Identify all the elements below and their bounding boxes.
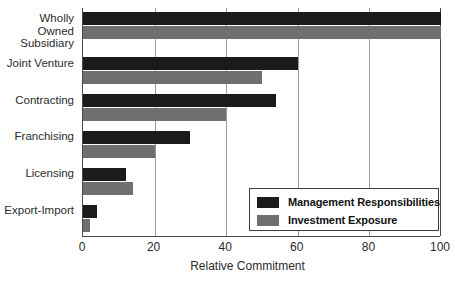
bar-investment-exposure-export-import	[83, 219, 90, 232]
legend-item-management-responsibilities: Management Responsibilities	[257, 194, 432, 210]
chart-legend: Management Responsibilities Investment E…	[249, 188, 439, 231]
legend-swatch-icon-management-responsibilities	[257, 197, 279, 208]
bar-management-responsibilities-export-import	[83, 205, 97, 218]
x-tick-40: 40	[219, 240, 232, 254]
legend-swatch-icon-investment-exposure	[257, 215, 279, 226]
legend-item-investment-exposure: Investment Exposure	[257, 212, 432, 228]
bar-investment-exposure-licensing	[83, 182, 133, 195]
gridline-20	[155, 8, 156, 236]
x-tick-60: 60	[290, 240, 303, 254]
bar-investment-exposure-contracting	[83, 108, 226, 121]
bar-management-responsibilities-joint-venture	[83, 57, 298, 70]
x-tick-100: 100	[430, 240, 450, 254]
x-tick-80: 80	[362, 240, 375, 254]
y-label-franchising: Franchising	[15, 130, 74, 143]
bar-management-responsibilities-contracting	[83, 94, 276, 107]
x-axis-tick-labels: 0 20 40 60 80 100	[0, 240, 455, 260]
bar-management-responsibilities-licensing	[83, 168, 126, 181]
y-label-joint-venture: Joint Venture	[7, 57, 74, 70]
gridline-40	[226, 8, 227, 236]
y-label-export-import: Export-Import	[4, 204, 74, 217]
legend-label-investment-exposure: Investment Exposure	[288, 214, 397, 226]
bar-investment-exposure-joint-venture	[83, 71, 262, 84]
y-label-contracting: Contracting	[15, 94, 74, 107]
y-axis-category-labels: Wholly Owned Subsidiary Joint Venture Co…	[0, 0, 78, 281]
bar-investment-exposure-wholly-owned-subsidiary	[83, 26, 441, 39]
bar-investment-exposure-franchising	[83, 145, 155, 158]
bar-chart: Wholly Owned Subsidiary Joint Venture Co…	[0, 0, 455, 281]
bar-management-responsibilities-franchising	[83, 131, 190, 144]
x-axis-title: Relative Commitment	[0, 259, 455, 273]
y-label-wholly-owned-subsidiary: Wholly Owned Subsidiary	[0, 12, 74, 50]
legend-label-management-responsibilities: Management Responsibilities	[288, 196, 440, 208]
x-tick-20: 20	[147, 240, 160, 254]
bar-management-responsibilities-wholly-owned-subsidiary	[83, 12, 441, 25]
x-tick-0: 0	[79, 240, 86, 254]
y-label-licensing: Licensing	[25, 167, 74, 180]
plot-area: Management Responsibilities Investment E…	[82, 8, 440, 237]
